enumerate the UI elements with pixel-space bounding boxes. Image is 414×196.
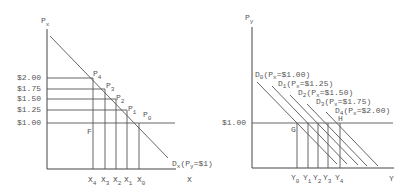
point-g: G — [291, 125, 296, 134]
demand-curve-d4 — [326, 112, 378, 166]
quantity-tick-y0: Y0 — [291, 173, 300, 185]
right-y-axis-label: Py — [245, 13, 254, 25]
quantity-tick-y1: Y1 — [303, 173, 312, 185]
point-f: F — [87, 127, 92, 136]
quantity-tick-x2: X2 — [113, 175, 122, 187]
quantity-tick-y3: Y3 — [323, 173, 332, 185]
quantity-tick-x3: X3 — [101, 175, 110, 187]
demand-curve-d1 — [272, 86, 347, 164]
price-tick-py-1.00: $1.00 — [222, 118, 246, 127]
right-x-axis-label: Y — [389, 174, 394, 183]
price-tick-1.75: $1.75 — [17, 84, 41, 93]
point-p2: P2 — [116, 93, 125, 105]
point-p3: P3 — [106, 81, 115, 93]
left-x-axis-label: X — [187, 175, 192, 184]
quantity-tick-y4: Y4 — [335, 173, 344, 185]
price-tick-2.00: $2.00 — [17, 73, 41, 82]
diagram-canvas: Px X $2.00 $1.75 $1.50 $1.25 $1.00 P4 P3… — [0, 0, 414, 196]
quantity-tick-x4: X4 — [88, 175, 97, 187]
left-panel: Px X $2.00 $1.75 $1.50 $1.25 $1.00 P4 P3… — [17, 16, 213, 187]
quantity-tick-y2: Y2 — [313, 173, 322, 185]
demand-label-dx: Dx(Py=$1) — [172, 159, 213, 170]
right-panel: Py Y $1.00 G H D0(Px=$1.00) D1(Px=$1.25)… — [222, 13, 394, 185]
demand-curve-dx — [50, 36, 168, 158]
demand-label-d4: D4(Px=$2.00) — [335, 106, 390, 117]
price-tick-1.00: $1.00 — [17, 118, 41, 127]
left-y-axis-label: Px — [41, 16, 50, 28]
quantity-tick-x0: X0 — [137, 175, 146, 187]
point-p4: P4 — [93, 69, 102, 81]
point-p1: P1 — [128, 104, 137, 116]
point-p0: P0 — [143, 110, 152, 122]
price-tick-1.25: $1.25 — [17, 105, 41, 114]
price-tick-1.50: $1.50 — [17, 94, 41, 103]
quantity-tick-x1: X1 — [124, 175, 133, 187]
